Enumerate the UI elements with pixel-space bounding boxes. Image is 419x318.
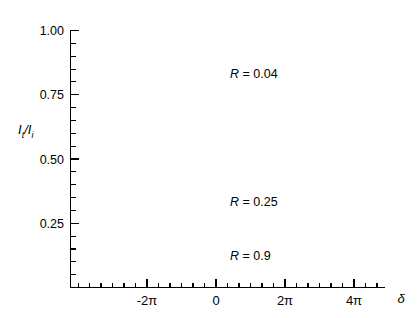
airy-transmittance-chart: 1.00 0.75 0.50 0.25 It/Ii: [0, 0, 419, 318]
curve-label-r-004-symbol: R: [230, 67, 239, 81]
x-tick-label-0: 0: [212, 293, 219, 308]
curve-label-r-025-value: = 0.25: [239, 195, 278, 209]
curve-label-r-09-symbol: R: [230, 249, 239, 263]
curve-label-r-025-symbol: R: [230, 195, 239, 209]
x-tick-label-2pi: 2π: [277, 293, 293, 308]
x-axis-title-delta: δ: [397, 291, 405, 306]
y-tick-label-3: 0.50: [40, 153, 64, 167]
figure-root: 1.00 0.75 0.50 0.25 It/Ii: [0, 0, 419, 318]
curve-label-r-004: R = 0.04: [230, 67, 278, 81]
curve-label-r-09: R = 0.9: [230, 249, 271, 263]
curve-label-r-004-value: = 0.04: [239, 67, 278, 81]
x-tick-label-minus-2pi: -2π: [137, 293, 158, 308]
curve-label-r-09-value: = 0.9: [239, 249, 271, 263]
y-tick-label-4: 0.25: [40, 217, 64, 231]
y-tick-label-1: 1.00: [40, 24, 64, 38]
y-tick-label-2: 0.75: [40, 88, 64, 102]
x-tick-label-4pi: 4π: [346, 293, 362, 308]
curve-label-r-025: R = 0.25: [230, 195, 278, 209]
